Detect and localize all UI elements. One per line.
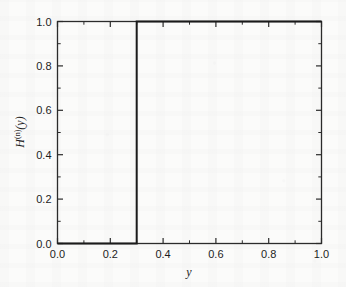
x-tick-label: 1.0 [314, 248, 329, 260]
x-axis-title: y [185, 265, 192, 279]
x-axis-tick-labels: 0.00.20.40.60.81.0 [50, 248, 329, 260]
figure-canvas: 0.00.20.40.60.81.0 0.00.20.40.60.81.0 y … [0, 0, 346, 287]
y-axis-title: H(n)(y) [13, 116, 27, 148]
y-axis-title-superscript: (n) [13, 129, 22, 139]
y-tick-label: 0.0 [36, 238, 51, 250]
data-series-group [58, 22, 322, 244]
y-axis-title-argument: (y) [13, 116, 27, 129]
y-axis-major-ticks [58, 22, 322, 244]
y-tick-label: 1.0 [36, 16, 51, 28]
plot-frame [58, 22, 322, 244]
x-tick-label: 0.2 [103, 248, 118, 260]
x-tick-label: 0.8 [261, 248, 276, 260]
x-tick-label: 0.6 [208, 248, 223, 260]
y-axis-tick-labels: 0.00.20.40.60.81.0 [36, 16, 51, 250]
y-axis-minor-ticks [58, 44, 322, 222]
x-tick-label: 0.0 [50, 248, 65, 260]
y-tick-label: 0.2 [36, 193, 51, 205]
x-axis-minor-ticks [84, 22, 295, 244]
svg-text:H(n)(y): H(n)(y) [13, 116, 27, 148]
y-tick-label: 0.8 [36, 60, 51, 72]
y-tick-label: 0.6 [36, 104, 51, 116]
step-function-chart: 0.00.20.40.60.81.0 0.00.20.40.60.81.0 y … [0, 0, 346, 287]
step-function-line [58, 22, 322, 244]
x-axis-major-ticks [58, 22, 322, 244]
y-tick-label: 0.4 [36, 149, 51, 161]
x-tick-label: 0.4 [155, 248, 170, 260]
